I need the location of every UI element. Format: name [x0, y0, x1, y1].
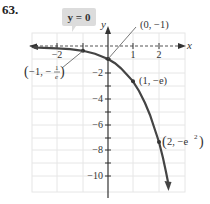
y-tick-label: −2: [92, 67, 103, 78]
x-tick-label: −2: [52, 49, 63, 60]
y-tick-label: −10: [87, 170, 103, 181]
svg-text:−1, −: −1, −: [29, 66, 51, 77]
y-axis-arrow-icon: [105, 26, 111, 34]
svg-text:): ): [60, 64, 65, 80]
svg-text:1: 1: [55, 64, 59, 72]
point-label-2: ( 2, −e 2 ): [162, 133, 204, 150]
y-tick-label: −4: [92, 93, 103, 104]
y-tick-label: −8: [92, 144, 103, 155]
point-label-0: (0, −1): [140, 19, 169, 31]
x-axis-label: x: [186, 39, 192, 51]
point-2: [157, 140, 161, 144]
x-tick-label: 2: [157, 49, 162, 60]
x-tick-label: 1: [131, 49, 136, 60]
asymptote-label: y = 0: [68, 11, 91, 23]
y-tick-label: −6: [92, 119, 103, 130]
svg-text:2, −e: 2, −e: [167, 136, 188, 147]
y-axis-label: y: [100, 18, 106, 30]
graph: −2 1 2 x y −2 −4 −6 −8 −10 y = 0 (0, −1)…: [0, 0, 210, 204]
point-1: [131, 79, 135, 83]
svg-text:): ): [199, 134, 204, 150]
point-label-1: (1, −e): [139, 75, 168, 87]
svg-text:e: e: [55, 73, 58, 81]
svg-text:2: 2: [194, 133, 198, 141]
curve-arrow-icon: [165, 181, 172, 191]
